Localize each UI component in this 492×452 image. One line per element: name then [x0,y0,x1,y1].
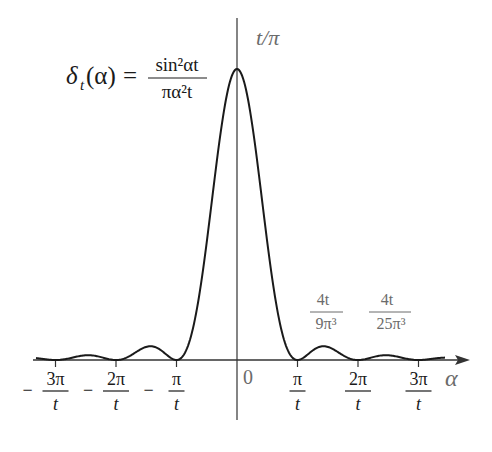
tick-labels: −3πt−2πt−πtπt2πt3πt [22,369,431,414]
tick-label: −3πt [22,369,68,414]
formula-lhs: δ [66,62,78,89]
tick-denominator: t [113,394,119,414]
tick-denominator: t [416,394,422,414]
sidelobe-2-denominator: 25π³ [377,315,406,332]
tick-numerator: 3π [46,369,64,389]
tick-sign: − [22,380,32,400]
tick-numerator: π [172,369,181,389]
tick-numerator: 2π [107,369,125,389]
tick-label: −πt [143,369,184,414]
tick-label: −2πt [83,369,129,414]
origin-label: 0 [243,366,253,388]
tick-label: πt [290,369,306,414]
sidelobe-label-2: 4t 25π³ [369,291,411,332]
formula-lhs-argument: (α) [86,62,116,90]
x-axis-label: α [445,365,458,391]
tick-denominator: t [53,394,59,414]
tick-sign: − [143,380,153,400]
sidelobe-2-numerator: 4t [381,291,394,308]
sidelobe-label-1: 4t 9π³ [310,291,343,332]
tick-numerator: 2π [349,369,367,389]
tick-denominator: t [355,394,361,414]
formula-denominator: πα²t [162,81,193,102]
tick-numerator: 3π [409,369,427,389]
formula-equals: = [123,62,137,89]
formula-lhs-subscript: t [80,77,85,93]
formula-label: δ t (α) = sin²αt πα²t [66,54,207,102]
sidelobe-1-numerator: 4t [317,291,330,308]
tick-label: 3πt [406,369,432,414]
sidelobe-1-denominator: 9π³ [316,315,337,332]
tick-denominator: t [295,394,301,414]
sinc-squared-diagram: δ t (α) = sin²αt πα²t t/π 0 α −3πt−2πt−π… [0,0,492,452]
tick-sign: − [83,380,93,400]
peak-label: t/π [256,25,280,50]
tick-numerator: π [293,369,302,389]
formula-numerator: sin²αt [155,54,199,75]
tick-label: 2πt [345,369,371,414]
tick-denominator: t [174,394,180,414]
